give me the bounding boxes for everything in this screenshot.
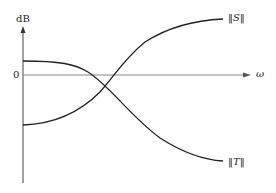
x-axis-arrow-icon <box>243 73 251 78</box>
curve-t <box>23 61 223 161</box>
s-curve-label: ‖S‖ <box>228 13 245 23</box>
curve-s <box>23 19 223 125</box>
x-axis-label: ω <box>256 69 264 79</box>
zero-tick-label: 0 <box>13 70 19 80</box>
y-axis-label: dB <box>16 14 30 24</box>
t-curve-label: ‖T‖ <box>228 157 245 167</box>
y-axis-arrow-icon <box>21 26 26 33</box>
